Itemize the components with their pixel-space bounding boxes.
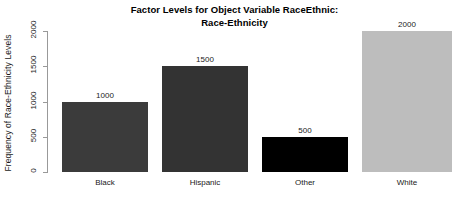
bar-value-label: 2000 [362, 20, 452, 29]
bar-value-label: 1500 [162, 55, 248, 64]
bar-hispanic[interactable]: 1500 [162, 66, 248, 172]
bar-white[interactable]: 2000 [362, 31, 452, 172]
x-axis-category-label: Other [262, 178, 348, 187]
bar-black[interactable]: 1000 [62, 102, 148, 173]
x-axis-category-label: Black [62, 178, 148, 187]
bar-value-label: 500 [262, 126, 348, 135]
x-axis-category-label: Hispanic [162, 178, 248, 187]
x-axis-category-label: White [362, 178, 452, 187]
bar-other[interactable]: 500 [262, 137, 348, 172]
bar-chart: Factor Levels for Object Variable RaceEt… [0, 0, 469, 201]
bar-value-label: 1000 [62, 91, 148, 100]
plot-area: 1000Black1500Hispanic500Other2000White [0, 0, 469, 201]
